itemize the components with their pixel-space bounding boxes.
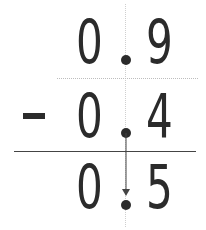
decimal-point-arrow-icon [0,0,206,230]
decimal-subtraction-diagram: 0 9 0 4 0 5 [0,0,206,230]
